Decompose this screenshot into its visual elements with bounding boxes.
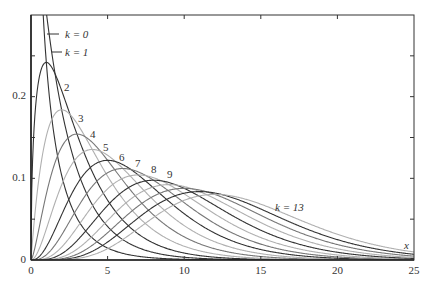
x-axis-label: x [403,239,409,251]
chi-square-chart: 0 5 10 15 20 25 0 0.1 0.2 x k = 0 k = 1 … [0,0,431,285]
x-tick-label-0: 0 [28,264,34,276]
y-tick-label-0.2: 0.2 [12,89,26,101]
curve-k8 [31,175,414,260]
curve-k3 [31,110,414,260]
curve-k2 [31,62,414,260]
x-tick-label-10: 10 [179,264,191,276]
curve-k12 [31,192,414,260]
x-tick-label-5: 5 [105,264,111,276]
x-tick-label-25: 25 [409,264,421,276]
label-k1: k = 1 [65,46,88,58]
label-k0: k = 0 [65,28,89,40]
x-tick-label-20: 20 [332,264,344,276]
label-k3: 3 [78,112,84,124]
plot-frame [31,15,414,260]
curves-group [31,0,414,260]
axis-ticks [31,15,414,260]
label-k6: 6 [119,151,125,163]
curve-k5 [31,149,414,260]
label-k13: k = 13 [275,201,304,213]
curve-k7 [31,169,414,260]
label-k9: 9 [167,168,173,180]
label-k8: 8 [151,163,157,175]
y-tick-label-0: 0 [21,253,27,265]
curve-k0 [31,0,414,260]
label-k4: 4 [90,128,96,140]
y-tick-label-0.1: 0.1 [12,171,26,183]
label-k2: 2 [64,81,70,93]
curve-k11 [31,188,414,260]
label-k5: 5 [103,141,109,153]
label-k7: 7 [135,157,141,169]
x-tick-label-15: 15 [255,264,267,276]
curve-k1 [31,0,414,260]
